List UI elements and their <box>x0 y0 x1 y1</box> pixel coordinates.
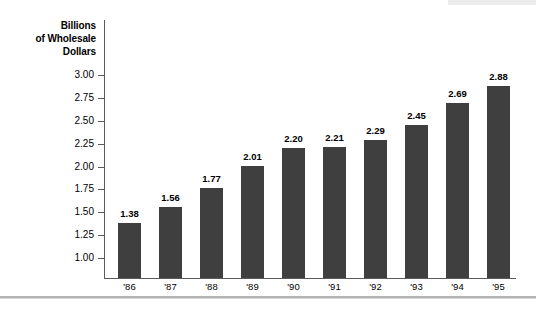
bar-value-label: 1.77 <box>191 173 232 184</box>
y-axis-tick <box>98 75 104 76</box>
y-axis-tick-label: 2.75 <box>48 92 94 103</box>
bar-value-label: 2.20 <box>273 133 314 144</box>
bar-value-label: 2.69 <box>437 88 478 99</box>
chart-canvas: Billions of Wholesale Dollars 3.002.752.… <box>0 0 536 315</box>
y-axis-caption-line-1: Billions <box>4 19 96 32</box>
y-axis-tick-label: 1.00 <box>48 252 94 263</box>
bottom-divider-shadow <box>0 298 536 299</box>
bar-value-label: 2.21 <box>314 132 355 143</box>
y-axis-tick-label: 3.00 <box>48 69 94 80</box>
bar-value-label: 1.38 <box>109 208 150 219</box>
bar-value-label: 2.88 <box>478 71 519 82</box>
y-axis-tick <box>98 212 104 213</box>
y-axis-tick <box>98 189 104 190</box>
y-axis-caption-line-3: Dollars <box>4 45 96 58</box>
y-axis-caption-line-2: of Wholesale <box>4 32 96 45</box>
y-axis-tick-label: 1.75 <box>48 183 94 194</box>
bar <box>159 207 182 278</box>
decorative-top-band <box>448 0 536 5</box>
bar-value-label: 2.01 <box>232 151 273 162</box>
bar <box>446 103 469 278</box>
y-axis-tick <box>98 167 104 168</box>
bar <box>200 188 223 278</box>
y-axis-tick-label: 2.25 <box>48 138 94 149</box>
y-axis-caption: Billions of Wholesale Dollars <box>4 19 96 58</box>
y-axis-tick <box>98 121 104 122</box>
x-axis-label: '88 <box>191 281 232 292</box>
y-axis-tick-label: 2.50 <box>48 115 94 126</box>
x-axis-line <box>104 278 516 279</box>
y-axis-tick <box>98 258 104 259</box>
bar <box>364 140 387 278</box>
x-axis-label: '89 <box>232 281 273 292</box>
y-axis-tick <box>98 98 104 99</box>
bar <box>118 223 141 278</box>
bar <box>282 148 305 278</box>
y-axis-tick <box>98 144 104 145</box>
bar <box>487 86 510 278</box>
x-axis-label: '90 <box>273 281 314 292</box>
x-axis-label: '92 <box>355 281 396 292</box>
x-axis-label: '87 <box>150 281 191 292</box>
bar-value-label: 2.29 <box>355 125 396 136</box>
bar-value-label: 2.45 <box>396 110 437 121</box>
y-axis-tick <box>98 235 104 236</box>
bar <box>405 125 428 278</box>
x-axis-label: '95 <box>478 281 519 292</box>
bar <box>241 166 264 278</box>
y-axis-line <box>104 20 105 278</box>
bar <box>323 147 346 278</box>
y-axis-tick-label: 1.25 <box>48 229 94 240</box>
y-axis-tick-label: 2.00 <box>48 161 94 172</box>
x-axis-label: '91 <box>314 281 355 292</box>
x-axis-label: '86 <box>109 281 150 292</box>
x-axis-label: '93 <box>396 281 437 292</box>
y-axis-tick-label: 1.50 <box>48 206 94 217</box>
bar-value-label: 1.56 <box>150 192 191 203</box>
x-axis-label: '94 <box>437 281 478 292</box>
